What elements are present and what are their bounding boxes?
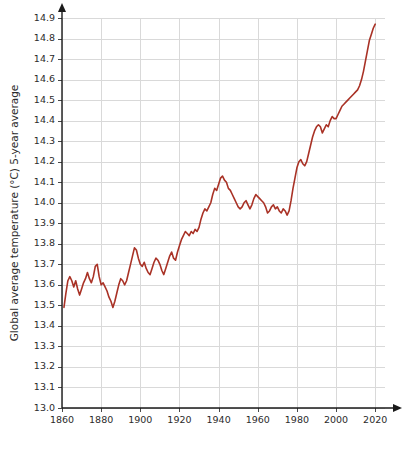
x-tick-label: 1980	[285, 414, 309, 425]
y-tick-label: 13.2	[34, 360, 55, 371]
x-axis-arrow-icon	[393, 404, 402, 412]
y-axis-tick-labels: 13.013.113.213.313.413.513.613.713.813.9…	[34, 12, 55, 413]
x-tick-label: 1920	[167, 414, 191, 425]
x-tick-label: 1900	[128, 414, 152, 425]
y-tick-label: 14.2	[34, 155, 55, 166]
x-tick-label: 2000	[324, 414, 348, 425]
x-tick-label: 1860	[50, 414, 74, 425]
y-tick-label: 14.3	[34, 135, 55, 146]
y-tick-label: 14.6	[34, 73, 55, 84]
y-tick-label: 13.9	[34, 217, 55, 228]
x-tick-label: 1940	[207, 414, 231, 425]
x-axis-tick-labels: 186018801900192019401960198020002020	[50, 414, 387, 425]
y-tick-label: 14.0	[34, 196, 55, 207]
chart-canvas: 13.013.113.213.313.413.513.613.713.813.9…	[0, 0, 402, 452]
y-tick-label: 13.3	[34, 340, 55, 351]
y-tick-label: 13.0	[34, 402, 55, 413]
y-tick-label: 13.6	[34, 278, 55, 289]
y-axis-arrow-icon	[58, 3, 66, 12]
y-tick-label: 13.5	[34, 299, 55, 310]
y-tick-label: 14.5	[34, 94, 55, 105]
y-axis-title: Global average temperature (°C) 5-year a…	[8, 85, 20, 342]
y-tick-label: 13.8	[34, 237, 55, 248]
x-tick-label: 1880	[89, 414, 113, 425]
y-tick-label: 14.9	[34, 12, 55, 23]
x-tick-label: 2020	[363, 414, 387, 425]
y-tick-label: 13.1	[34, 381, 55, 392]
y-tick-label: 14.1	[34, 176, 55, 187]
x-tick-label: 1960	[246, 414, 270, 425]
y-tick-label: 13.7	[34, 258, 55, 269]
temperature-line-chart: 13.013.113.213.313.413.513.613.713.813.9…	[0, 0, 402, 452]
y-tick-label: 14.8	[34, 32, 55, 43]
y-tick-label: 14.7	[34, 53, 55, 64]
vertical-gridlines	[63, 18, 376, 408]
y-tick-label: 14.4	[34, 114, 55, 125]
y-tick-label: 13.4	[34, 319, 55, 330]
